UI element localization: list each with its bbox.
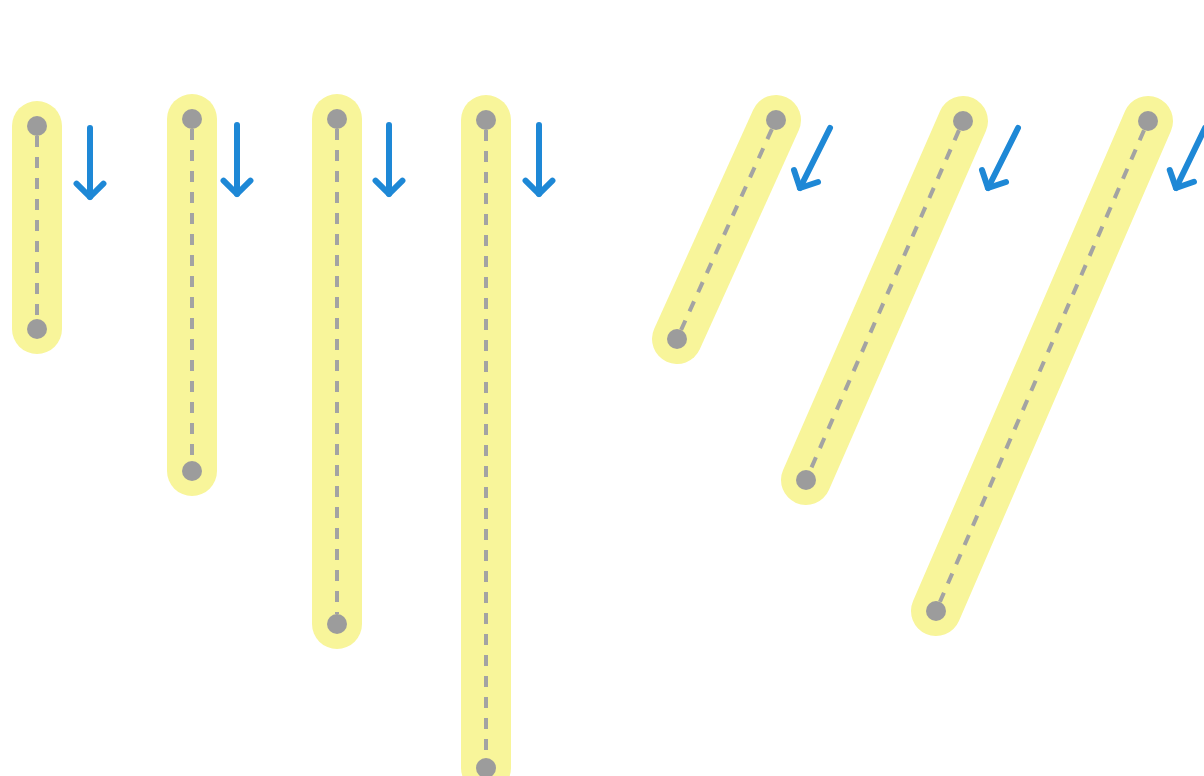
arrow-down-left-icon: [1170, 128, 1204, 188]
arrows-layer: [77, 125, 1204, 197]
end-dot-icon: [667, 329, 687, 349]
diagram-canvas: [0, 0, 1204, 776]
start-dot-icon: [476, 110, 496, 130]
arrow-down-icon: [526, 125, 553, 194]
arrow-down-icon: [224, 125, 251, 194]
start-dot-icon: [1138, 111, 1158, 131]
end-dot-icon: [182, 461, 202, 481]
arrow-down-icon: [376, 125, 403, 194]
end-dot-icon: [327, 614, 347, 634]
segment-vertical-2: [182, 109, 202, 481]
start-dot-icon: [766, 110, 786, 130]
segments-layer: [27, 109, 1158, 776]
segment-vertical-4: [476, 110, 496, 776]
start-dot-icon: [27, 116, 47, 136]
end-dot-icon: [796, 470, 816, 490]
start-dot-icon: [327, 109, 347, 129]
start-dot-icon: [182, 109, 202, 129]
arrow-down-left-icon: [982, 128, 1018, 188]
segment-diagonal-2: [796, 111, 973, 490]
start-dot-icon: [953, 111, 973, 131]
arrow-down-icon: [77, 128, 104, 197]
segment-vertical-1: [27, 116, 47, 339]
end-dot-icon: [27, 319, 47, 339]
end-dot-icon: [926, 601, 946, 621]
segment-diagonal-1: [667, 110, 786, 349]
arrow-down-left-icon: [794, 128, 830, 188]
segment-vertical-3: [327, 109, 347, 634]
